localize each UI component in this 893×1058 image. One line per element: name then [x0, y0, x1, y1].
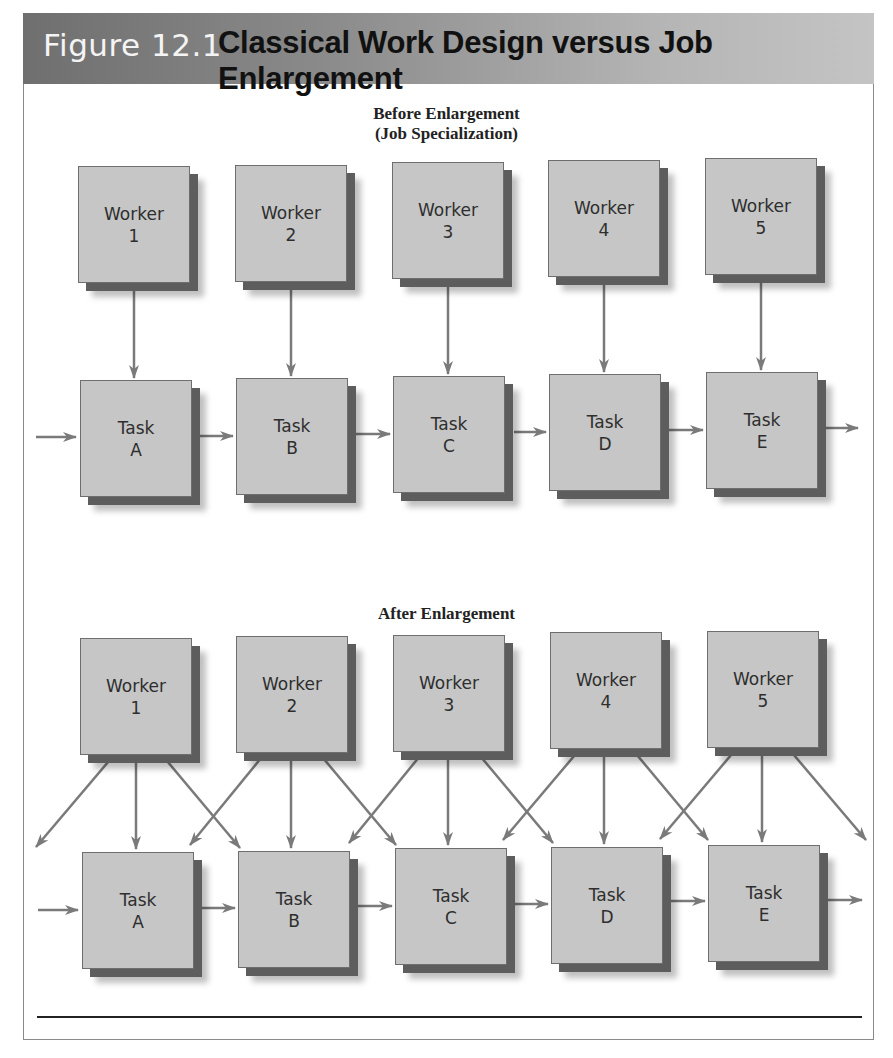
- worker-label: Worker: [419, 672, 479, 694]
- worker-number: 3: [444, 694, 455, 716]
- task-label: Task: [744, 409, 781, 431]
- worker-number: 5: [758, 690, 769, 712]
- after-worker-4: Worker 4: [550, 632, 662, 749]
- task-label: Task: [120, 889, 157, 911]
- after-worker-2: Worker 2: [236, 636, 348, 753]
- task-letter: B: [288, 910, 300, 932]
- task-label: Task: [746, 882, 783, 904]
- before-title: Before Enlargement (Job Specialization): [0, 104, 893, 144]
- task-letter: C: [443, 435, 455, 457]
- figure-label: Figure 12.1: [43, 27, 222, 63]
- worker-label: Worker: [418, 199, 478, 221]
- before-task-b: Task B: [236, 378, 348, 495]
- worker-number: 5: [756, 217, 767, 239]
- before-worker-1: Worker 1: [78, 166, 190, 283]
- before-worker-3: Worker 3: [392, 162, 504, 279]
- worker-label: Worker: [576, 669, 636, 691]
- worker-number: 2: [286, 224, 297, 246]
- before-task-c: Task C: [393, 376, 505, 493]
- before-task-d: Task D: [549, 374, 661, 491]
- worker-label: Worker: [261, 202, 321, 224]
- worker-number: 2: [287, 695, 298, 717]
- task-letter: A: [132, 911, 144, 933]
- task-letter: D: [600, 906, 613, 928]
- worker-label: Worker: [106, 675, 166, 697]
- task-label: Task: [431, 413, 468, 435]
- bottom-rule: [37, 1016, 862, 1018]
- task-letter: E: [759, 904, 770, 926]
- task-letter: E: [757, 431, 768, 453]
- after-worker-3: Worker 3: [393, 635, 505, 752]
- task-label: Task: [276, 888, 313, 910]
- worker-number: 1: [131, 697, 142, 719]
- after-task-d: Task D: [551, 847, 663, 964]
- after-task-b: Task B: [238, 851, 350, 968]
- after-worker-5: Worker 5: [707, 631, 819, 748]
- task-label: Task: [274, 415, 311, 437]
- after-task-e: Task E: [708, 845, 820, 962]
- after-task-a: Task A: [82, 852, 194, 969]
- worker-label: Worker: [731, 195, 791, 217]
- after-title: After Enlargement: [0, 604, 893, 624]
- worker-label: Worker: [262, 673, 322, 695]
- worker-number: 3: [443, 221, 454, 243]
- task-label: Task: [118, 417, 155, 439]
- task-letter: D: [598, 433, 611, 455]
- task-letter: B: [286, 437, 298, 459]
- task-label: Task: [433, 885, 470, 907]
- before-title-line1: Before Enlargement: [0, 104, 893, 124]
- before-title-line2: (Job Specialization): [0, 124, 893, 144]
- task-label: Task: [587, 411, 624, 433]
- task-label: Task: [589, 884, 626, 906]
- figure-title: Classical Work Design versus Job Enlarge…: [218, 25, 893, 97]
- after-task-c: Task C: [395, 848, 507, 965]
- task-letter: C: [445, 907, 457, 929]
- worker-number: 4: [601, 691, 612, 713]
- worker-label: Worker: [733, 668, 793, 690]
- task-letter: A: [130, 439, 142, 461]
- worker-label: Worker: [574, 197, 634, 219]
- worker-number: 1: [129, 225, 140, 247]
- before-worker-4: Worker 4: [548, 160, 660, 277]
- before-worker-2: Worker 2: [235, 165, 347, 282]
- worker-label: Worker: [104, 203, 164, 225]
- worker-number: 4: [599, 219, 610, 241]
- before-task-a: Task A: [80, 380, 192, 497]
- after-worker-1: Worker 1: [80, 638, 192, 755]
- before-worker-5: Worker 5: [705, 158, 817, 275]
- before-task-e: Task E: [706, 372, 818, 489]
